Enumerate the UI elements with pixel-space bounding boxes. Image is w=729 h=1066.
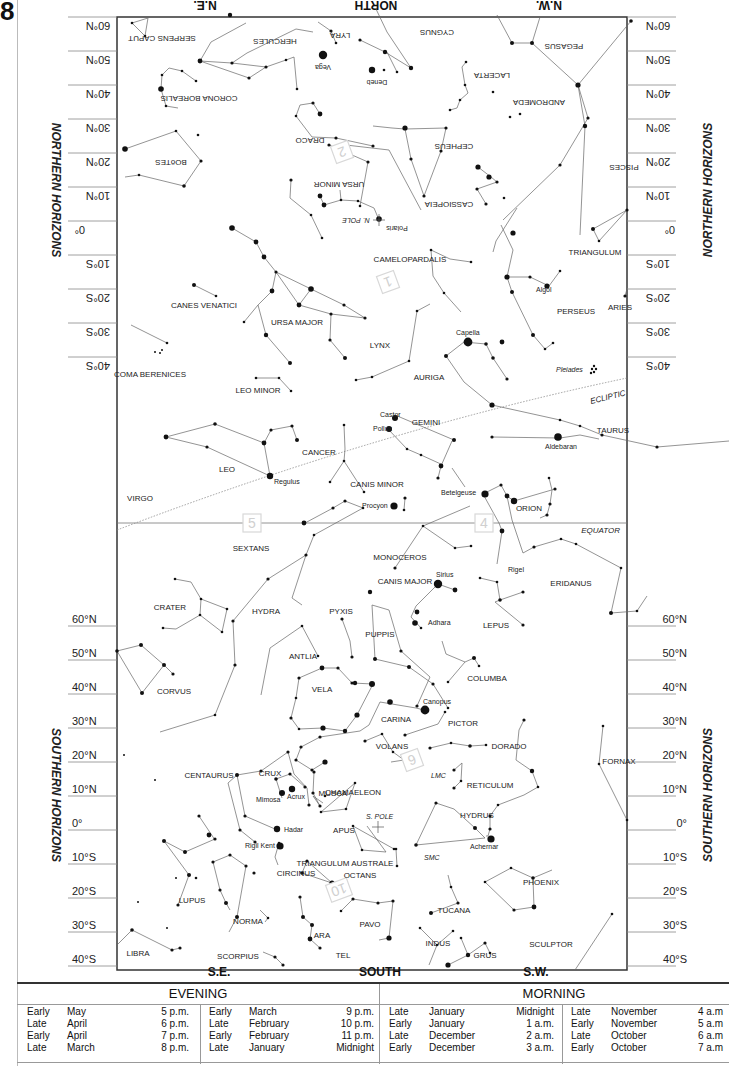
svg-text:30°N: 30°N [662, 715, 687, 727]
svg-text:30°S: 30°S [86, 326, 110, 338]
svg-text:COLUMBA: COLUMBA [467, 674, 507, 683]
svg-text:GRUS: GRUS [473, 951, 496, 960]
svg-text:VELA: VELA [312, 685, 333, 694]
svg-text:0°: 0° [676, 817, 687, 829]
svg-text:Rigil Kent: Rigil Kent [245, 842, 275, 850]
svg-text:20°N: 20°N [72, 749, 97, 761]
time-row: EarlyNovember5 a.m [571, 1018, 723, 1030]
svg-text:Pollux: Pollux [373, 425, 393, 432]
svg-text:HYDRA: HYDRA [252, 607, 281, 616]
svg-text:Procyon: Procyon [362, 502, 388, 510]
svg-text:CANIS MINOR: CANIS MINOR [350, 480, 404, 489]
north-latitude-labels-right: 60°N 50°N 40°N 30°N 20°N 10°N 0° 10°S 20… [646, 20, 675, 372]
svg-text:ARIES: ARIES [608, 303, 632, 312]
svg-text:RETICULUM: RETICULUM [467, 781, 514, 790]
svg-text:10°N: 10°N [86, 190, 111, 202]
svg-text:ERIDANUS: ERIDANUS [550, 579, 591, 588]
time-row: LateJanuaryMidnight [209, 1042, 374, 1054]
svg-text:URSA MAJOR: URSA MAJOR [271, 318, 323, 327]
svg-text:20°N: 20°N [662, 749, 687, 761]
svg-text:Canopus: Canopus [423, 698, 452, 706]
evening-morning-divider [379, 984, 380, 1064]
evening-column-1: EarlyMay5 p.m. LateApril6 p.m. EarlyApri… [27, 1006, 189, 1054]
svg-text:PISCES: PISCES [609, 163, 638, 172]
svg-text:LEPUS: LEPUS [483, 621, 509, 630]
svg-text:5: 5 [248, 515, 256, 531]
svg-text:SMC: SMC [424, 854, 441, 861]
svg-text:CANIS MAJOR: CANIS MAJOR [378, 577, 433, 586]
svg-text:CIRCINUS: CIRCINUS [277, 869, 316, 878]
svg-text:CARINA: CARINA [381, 715, 412, 724]
svg-text:30°S: 30°S [72, 919, 96, 931]
time-row: LateFebruary10 p.m. [209, 1018, 374, 1030]
svg-text:S. POLE: S. POLE [366, 813, 394, 820]
svg-text:Sirius: Sirius [436, 571, 454, 578]
svg-text:HERCULES: HERCULES [253, 37, 297, 46]
svg-text:GEMINI: GEMINI [412, 418, 440, 427]
svg-text:40°S: 40°S [72, 953, 96, 965]
time-row: LateOctober6 a.m [571, 1030, 723, 1042]
svg-text:ARA: ARA [314, 931, 331, 940]
svg-text:ANDROMEDA: ANDROMEDA [512, 98, 565, 107]
svg-text:TRIANGULUM AUSTRALE: TRIANGULUM AUSTRALE [297, 859, 394, 868]
svg-text:Polaris: Polaris [386, 225, 408, 232]
svg-text:CANCER: CANCER [302, 448, 336, 457]
time-row: EarlyOctober7 a.m [571, 1042, 723, 1054]
svg-text:Algol: Algol [536, 286, 552, 294]
svg-text:10°N: 10°N [646, 190, 671, 202]
svg-text:50°N: 50°N [86, 54, 111, 66]
svg-text:COMA BERENICES: COMA BERENICES [114, 370, 186, 379]
svg-text:HYDRUS: HYDRUS [460, 811, 494, 820]
svg-text:APUS: APUS [333, 826, 355, 835]
time-row: LateApril6 p.m. [27, 1018, 189, 1030]
svg-text:TUCANA: TUCANA [438, 906, 472, 915]
svg-text:Rigel: Rigel [508, 566, 524, 574]
svg-text:PHOENIX: PHOENIX [523, 878, 560, 887]
time-row: EarlyJanuary1 a.m. [389, 1018, 554, 1030]
svg-text:LEO MINOR: LEO MINOR [236, 386, 281, 395]
svg-text:DRACO: DRACO [296, 136, 325, 145]
morning-column-2: LateNovember4 a.m EarlyNovember5 a.m Lat… [571, 1006, 723, 1054]
svg-text:60°N: 60°N [72, 613, 97, 625]
svg-text:Pleiades: Pleiades [556, 366, 583, 373]
svg-text:30°S: 30°S [646, 326, 670, 338]
svg-text:SERPENS CAPUT: SERPENS CAPUT [128, 34, 196, 43]
svg-text:10°S: 10°S [646, 258, 670, 270]
svg-text:10°N: 10°N [662, 783, 687, 795]
svg-text:60°N: 60°N [662, 613, 687, 625]
svg-text:DORADO: DORADO [491, 742, 526, 751]
evening-column-2: EarlyMarch9 p.m. LateFebruary10 p.m. Ear… [209, 1006, 374, 1054]
svg-text:40°N: 40°N [86, 88, 111, 100]
star-chart: 60°N 50°N 40°N 30°N 20°N 10°N 0° 10°S 20… [0, 0, 729, 980]
time-row: EarlyDecember3 a.m. [389, 1042, 554, 1054]
svg-text:SEXTANS: SEXTANS [233, 544, 270, 553]
svg-text:PERSEUS: PERSEUS [557, 307, 595, 316]
svg-text:MONOCEROS: MONOCEROS [373, 553, 426, 562]
south-latitude-labels-left: 60°N 50°N 40°N 30°N 20°N 10°N 0° 10°S 20… [72, 613, 97, 965]
svg-text:NORMA: NORMA [233, 917, 263, 926]
svg-text:CENTAURUS: CENTAURUS [184, 771, 233, 780]
direction-north: NORTH [355, 0, 398, 12]
svg-text:VOLANS: VOLANS [376, 742, 408, 751]
svg-text:10°S: 10°S [663, 851, 687, 863]
svg-text:50°N: 50°N [662, 647, 687, 659]
svg-text:Acrux: Acrux [287, 793, 305, 800]
svg-text:CEPHEUS: CEPHEUS [435, 142, 474, 151]
svg-text:BOöTES: BOöTES [155, 158, 187, 167]
svg-text:Betelgeuse: Betelgeuse [441, 489, 476, 497]
north-latitude-labels-left: 60°N 50°N 40°N 30°N 20°N 10°N 0° 10°S 20… [74, 20, 110, 372]
morning-column-1: LateJanuaryMidnight EarlyJanuary1 a.m. L… [389, 1006, 554, 1054]
viewing-times-table: EVENING MORNING EarlyMay5 p.m. LateApril… [17, 982, 729, 1066]
svg-text:40°S: 40°S [646, 360, 670, 372]
svg-text:LYRA: LYRA [329, 31, 350, 40]
svg-text:40°N: 40°N [646, 88, 671, 100]
svg-text:40°S: 40°S [663, 953, 687, 965]
svg-text:Castor: Castor [380, 411, 401, 418]
southern-horizons-label-right: SOUTHERN HORIZONS [701, 728, 715, 862]
svg-text:CRATER: CRATER [154, 603, 187, 612]
svg-text:INDUS: INDUS [426, 939, 451, 948]
svg-text:TEL: TEL [336, 951, 351, 960]
svg-text:40°N: 40°N [662, 681, 687, 693]
svg-text:10°N: 10°N [72, 783, 97, 795]
svg-text:Mimosa: Mimosa [256, 796, 281, 803]
